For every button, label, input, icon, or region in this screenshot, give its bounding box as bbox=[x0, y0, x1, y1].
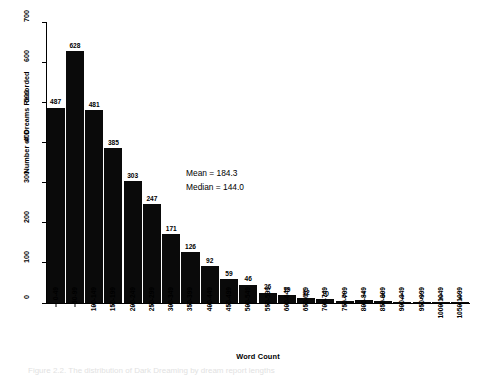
x-tick-label: 550-599 bbox=[263, 287, 273, 339]
bar-item: 2 bbox=[412, 22, 431, 303]
x-axis-ticks: 0-4950-99100-149150-199200-249250-299300… bbox=[46, 304, 470, 356]
bar-value-label: 59 bbox=[225, 271, 232, 278]
x-tick-label: 150-199 bbox=[108, 287, 118, 339]
bar bbox=[124, 181, 142, 303]
bar bbox=[85, 110, 103, 303]
x-tick: 1050-1099 bbox=[451, 304, 470, 356]
x-tick: 500-549 bbox=[239, 304, 258, 356]
x-tick-label: 100-149 bbox=[89, 287, 99, 339]
x-tick-label: 950-999 bbox=[417, 287, 427, 339]
bar-value-label: 171 bbox=[166, 226, 177, 233]
bar-item: 487 bbox=[46, 22, 65, 303]
bar-item: 6 bbox=[335, 22, 354, 303]
x-tick-label: 500-549 bbox=[243, 287, 253, 339]
x-tick: 850-899 bbox=[374, 304, 393, 356]
x-tick: 300-349 bbox=[162, 304, 181, 356]
x-tick: 0-49 bbox=[46, 304, 65, 356]
x-tick-label: 1050-1099 bbox=[455, 287, 465, 339]
bar-value-label: 247 bbox=[146, 196, 157, 203]
mean-text: Mean = 184.3 bbox=[186, 166, 244, 180]
x-tick-label: 700-749 bbox=[320, 287, 330, 339]
bar bbox=[104, 148, 122, 303]
bar-value-label: 481 bbox=[89, 102, 100, 109]
bar-item: 303 bbox=[123, 22, 142, 303]
y-tick-label: 600 bbox=[15, 44, 39, 68]
bar-item: 247 bbox=[142, 22, 161, 303]
x-tick: 600-649 bbox=[277, 304, 296, 356]
x-tick: 100-149 bbox=[85, 304, 104, 356]
bar-item: 126 bbox=[181, 22, 200, 303]
bar-item: 1 bbox=[451, 22, 470, 303]
y-tick-label: 100 bbox=[15, 245, 39, 269]
x-tick: 950-999 bbox=[412, 304, 431, 356]
bar-item: 26 bbox=[258, 22, 277, 303]
x-tick-label: 750-799 bbox=[340, 287, 350, 339]
x-tick-label: 400-449 bbox=[205, 287, 215, 339]
bar-item: 12 bbox=[296, 22, 315, 303]
x-tick-label: 1000-1049 bbox=[436, 287, 446, 339]
x-tick-label: 300-349 bbox=[166, 287, 176, 339]
y-tick-label: 300 bbox=[15, 165, 39, 189]
x-tick-label: 0-49 bbox=[51, 287, 61, 339]
x-tick: 200-249 bbox=[123, 304, 142, 356]
y-tick-label: 700 bbox=[15, 4, 39, 28]
x-tick: 800-849 bbox=[354, 304, 373, 356]
x-tick-label: 800-849 bbox=[359, 287, 369, 339]
bar-value-label: 628 bbox=[69, 43, 80, 50]
y-tick-label: 0 bbox=[15, 285, 39, 309]
x-tick-label: 200-249 bbox=[128, 287, 138, 339]
x-tick: 900-949 bbox=[393, 304, 412, 356]
bar bbox=[66, 51, 84, 303]
bar-item: 92 bbox=[200, 22, 219, 303]
bar bbox=[47, 108, 65, 303]
y-tick-label: 200 bbox=[15, 205, 39, 229]
stats-annotation: Mean = 184.3 Median = 144.0 bbox=[186, 166, 244, 194]
x-tick: 650-699 bbox=[296, 304, 315, 356]
x-tick: 350-399 bbox=[181, 304, 200, 356]
bar-value-label: 126 bbox=[185, 244, 196, 251]
x-tick-label: 900-949 bbox=[397, 287, 407, 339]
bar-item: 2 bbox=[431, 22, 450, 303]
x-tick: 750-799 bbox=[335, 304, 354, 356]
bar-series: 4876284813853032471711269259462619121067… bbox=[46, 22, 470, 303]
bar-item: 1 bbox=[393, 22, 412, 303]
bar-value-label: 303 bbox=[127, 173, 138, 180]
bar-value-label: 487 bbox=[50, 99, 61, 106]
x-tick-label: 50-99 bbox=[70, 287, 80, 339]
x-tick-label: 250-299 bbox=[147, 287, 157, 339]
bar-value-label: 385 bbox=[108, 140, 119, 147]
bar-item: 385 bbox=[104, 22, 123, 303]
x-tick-label: 600-649 bbox=[282, 287, 292, 339]
bar-item: 481 bbox=[85, 22, 104, 303]
x-tick: 150-199 bbox=[104, 304, 123, 356]
y-axis-ticks: 0100200300400500600700 bbox=[0, 0, 46, 378]
x-tick: 550-599 bbox=[258, 304, 277, 356]
x-tick-label: 650-699 bbox=[301, 287, 311, 339]
histogram-figure: Number of Dreams Recorded 01002003004005… bbox=[0, 0, 478, 378]
x-tick: 1000-1049 bbox=[431, 304, 450, 356]
x-tick-label: 450-499 bbox=[224, 287, 234, 339]
x-tick: 250-299 bbox=[142, 304, 161, 356]
x-tick: 700-749 bbox=[316, 304, 335, 356]
bar-value-label: 92 bbox=[206, 258, 213, 265]
bar-item: 10 bbox=[316, 22, 335, 303]
x-tick-label: 850-899 bbox=[378, 287, 388, 339]
plot-area: 4876284813853032471711269259462619121067… bbox=[46, 22, 470, 303]
bar-item: 46 bbox=[239, 22, 258, 303]
figure-caption: Figure 2.2. The distribution of Dark Dre… bbox=[28, 366, 468, 375]
bar-item: 628 bbox=[65, 22, 84, 303]
y-tick-label: 500 bbox=[15, 84, 39, 108]
x-tick: 50-99 bbox=[65, 304, 84, 356]
bar-value-label: 46 bbox=[245, 276, 252, 283]
bar-item: 5 bbox=[374, 22, 393, 303]
bar-item: 59 bbox=[219, 22, 238, 303]
bar-item: 7 bbox=[354, 22, 373, 303]
y-tick-label: 400 bbox=[15, 124, 39, 148]
bar-item: 19 bbox=[277, 22, 296, 303]
median-text: Median = 144.0 bbox=[186, 180, 244, 194]
x-tick-label: 350-399 bbox=[185, 287, 195, 339]
bar-item: 171 bbox=[162, 22, 181, 303]
x-tick: 400-449 bbox=[200, 304, 219, 356]
x-axis-title: Word Count bbox=[46, 352, 470, 361]
x-tick: 450-499 bbox=[219, 304, 238, 356]
